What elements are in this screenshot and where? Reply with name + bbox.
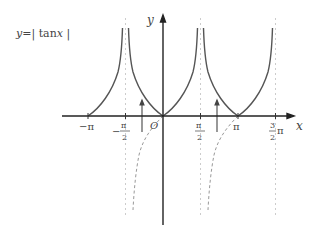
x-axis-arrow-icon (287, 114, 294, 119)
y-axis-arrow-icon (161, 15, 166, 22)
function-title: y=| tanx | (16, 27, 70, 40)
title-var: x (57, 27, 63, 40)
title-bar-left: | (31, 27, 35, 40)
tick-label-three-half-pi-num: 3 (270, 121, 275, 130)
x-axis-label: x (296, 119, 303, 133)
tick-label-neg-half-pi-sign: − (112, 126, 120, 137)
tick-label-half-pi-den: 2 (197, 133, 202, 142)
tick-label-pi: π (233, 121, 240, 132)
arrow-left-head (140, 100, 144, 105)
axes (62, 15, 294, 225)
tick-label-neg-pi: −π (79, 121, 94, 132)
title-bar-right: | (66, 27, 70, 40)
title-fn: tan (39, 27, 57, 40)
tick-label-half-pi-num: π (196, 121, 201, 130)
curve-branch-2 (129, 28, 164, 116)
arrow-right-head (215, 100, 219, 105)
tick-label-three-half-pi-den: 2 (270, 133, 275, 142)
tick-label-neg-half-pi-den: 2 (122, 133, 127, 142)
curve-branch-3 (163, 28, 198, 116)
graph-figure: y=| tanx | (0, 0, 310, 231)
tan-negative-dashed (133, 116, 238, 210)
tick-label-neg-half-pi-num: π (121, 121, 126, 130)
curve-branch-5 (238, 28, 273, 116)
origin-label: O (150, 120, 158, 131)
abs-tan-curves (88, 28, 273, 116)
curve-branch-4 (204, 28, 239, 116)
dashed-branch-left (133, 116, 163, 210)
curve-branch-1 (88, 28, 123, 116)
y-axis-label: y (146, 13, 154, 27)
tick-label-three-half-pi-sym: π (277, 125, 284, 136)
